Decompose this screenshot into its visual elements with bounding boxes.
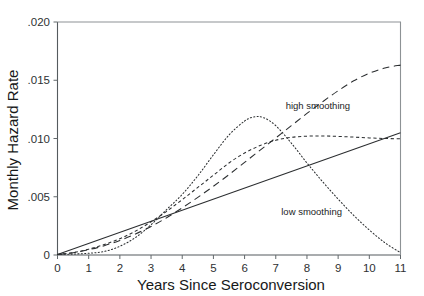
chart-canvas: 0.005.010.015.02001234567891011 high smo… [0,0,424,296]
y-tick-label: 0 [44,249,50,261]
x-tick-label: 1 [85,262,91,274]
annotation-low-smoothing: low smoothing [281,206,342,217]
y-axis-title: Monthly Hazard Rate [4,70,21,211]
x-axis-title: Years Since Seroconversion [137,276,325,293]
series-annotations: high smoothinglow smoothing [281,100,350,217]
x-tick-label: 2 [117,262,123,274]
axis-lines [58,22,401,255]
y-tick-label: .020 [28,16,50,28]
x-tick-label: 3 [148,262,154,274]
x-tick-label: 11 [395,262,407,274]
series-curve-straight-line [58,133,401,255]
x-tick-label: 10 [363,262,376,274]
y-tick-label: .010 [28,133,50,145]
axis-tick-labels: 0.005.010.015.02001234567891011 [28,16,407,274]
hazard-rate-chart-figure: 0.005.010.015.02001234567891011 high smo… [0,0,424,296]
x-tick-label: 7 [273,262,279,274]
x-tick-label: 8 [304,262,310,274]
x-tick-label: 6 [241,262,247,274]
x-tick-label: 0 [54,262,60,274]
y-tick-label: .015 [28,74,50,86]
plot-frame [58,22,401,255]
plot-border [58,22,401,255]
data-series-curves [58,65,401,254]
annotation-high-smoothing: high smoothing [286,100,350,111]
series-curve-low-smoothing [58,116,401,254]
y-tick-label: .005 [28,191,50,203]
axis-ticks [54,22,401,259]
x-tick-label: 4 [179,262,186,274]
x-tick-label: 5 [210,262,216,274]
x-tick-label: 9 [335,262,341,274]
series-curve-high-smoothing [58,65,401,254]
